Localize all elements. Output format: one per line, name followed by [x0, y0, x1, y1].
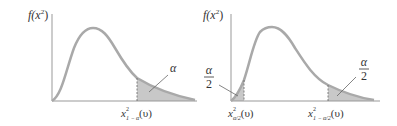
right-left-alpha-pointer	[219, 85, 238, 96]
right-figure: f(x2) α 2 α 2 x2α/2(υ) x21 − α/2(υ)	[203, 8, 380, 121]
right-left-alpha-numerator: α	[206, 63, 213, 77]
right-y-axis-label: f(x2)	[203, 8, 223, 22]
left-critical-value-label: x21 − α(υ)	[120, 106, 152, 121]
right-right-alpha-denominator: 2	[361, 69, 367, 83]
left-figure: f(x2) α x21 − α(υ)	[28, 8, 197, 121]
left-y-axis-label: f(x2)	[28, 8, 48, 22]
chi-square-diagrams: f(x2) α x21 − α(υ) f(x2) α 2 α 2 x2α/2(υ…	[0, 0, 397, 126]
right-right-alpha-numerator: α	[361, 55, 368, 69]
right-density-curve	[231, 27, 374, 101]
right-left-alpha-denominator: 2	[206, 77, 212, 91]
right-lower-critical-value-label: x2α/2(υ)	[227, 106, 254, 121]
right-upper-critical-value-label: x21 − α/2(υ)	[307, 106, 344, 121]
left-alpha-label: α	[170, 61, 177, 75]
